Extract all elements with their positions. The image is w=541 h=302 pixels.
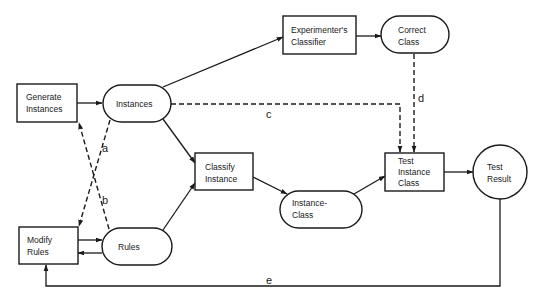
node-label-line: Instance- <box>292 198 327 208</box>
edge-instances-to-classify-instance <box>163 119 195 163</box>
node-instances: Instances <box>103 85 171 122</box>
node-label-line: Class <box>398 37 419 47</box>
node-label-line: Class <box>292 210 313 220</box>
edge-label-b: b <box>102 194 108 206</box>
node-rules: Rules <box>102 228 172 265</box>
node-label-line: Correct <box>398 25 427 35</box>
node-test-result: Test Result <box>473 145 527 199</box>
node-label-line: Test <box>487 162 503 172</box>
edge-label-d: d <box>418 92 424 104</box>
node-label-line: Experimenter's <box>291 25 347 35</box>
node-classify-instance: Classify Instance <box>195 153 253 190</box>
node-label-line: Instances <box>116 99 152 109</box>
node-label-line: Instance <box>205 174 237 184</box>
node-label-line: Generate <box>26 92 62 102</box>
node-label-line: Result <box>487 174 512 184</box>
edge-label-e: e <box>266 274 272 286</box>
node-label-line: Test <box>398 156 414 166</box>
edge-instance-class-to-test <box>354 176 385 194</box>
edge-c-dashed <box>171 104 400 152</box>
node-generate-instances: Generate Instances <box>17 84 77 122</box>
node-instance-class: Instance- Class <box>280 191 362 228</box>
edge-label-a: a <box>102 142 109 154</box>
learning-system-diagram: a b c d e Generate Instances Instances E… <box>0 0 541 302</box>
node-label-line: Classify <box>205 162 236 172</box>
edge-classify-to-instance-class <box>253 177 287 194</box>
node-label-line: Rules <box>118 242 140 252</box>
node-label-line: Instances <box>26 104 62 114</box>
node-label-line: Instance <box>398 167 430 177</box>
edge-instances-to-experimenters-classifier <box>163 37 283 87</box>
edge-b-dashed <box>79 120 110 226</box>
edge-rules-to-classify-instance <box>163 183 195 230</box>
edge-label-c: c <box>266 108 272 120</box>
node-experimenters-classifier: Experimenter's Classifier <box>283 16 356 54</box>
node-label-line: Modify <box>27 235 53 245</box>
node-modify-rules: Modify Rules <box>19 227 78 264</box>
node-label-line: Class <box>398 178 419 188</box>
node-correct-class: Correct Class <box>381 16 449 53</box>
node-test-instance-class: Test Instance Class <box>385 153 444 191</box>
node-label-line: Classifier <box>291 37 326 47</box>
node-label-line: Rules <box>27 247 49 257</box>
